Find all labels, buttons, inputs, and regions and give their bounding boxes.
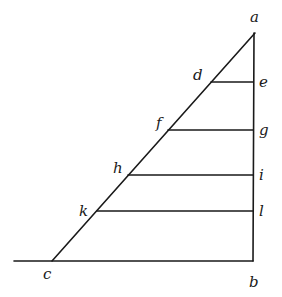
hypotenuse-ac	[52, 33, 255, 261]
label-c: c	[43, 265, 52, 283]
label-b: b	[249, 273, 259, 291]
label-f: f	[155, 114, 164, 132]
label-h: h	[113, 159, 123, 177]
label-g: g	[259, 121, 269, 139]
geometric-diagram: a b c d e f g h i k l	[0, 0, 282, 297]
label-a: a	[250, 8, 259, 26]
label-e: e	[259, 73, 268, 91]
label-d: d	[193, 66, 203, 84]
label-k: k	[79, 202, 88, 220]
vertical-ab	[253, 33, 254, 261]
label-l: l	[259, 202, 264, 220]
label-i: i	[259, 166, 264, 184]
